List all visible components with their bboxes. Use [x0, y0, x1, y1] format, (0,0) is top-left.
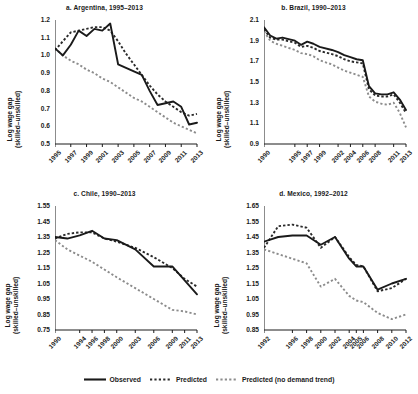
y-tick-label: 1.45 [246, 233, 259, 240]
x-tick-label: 2009 [164, 335, 179, 350]
series-line-dashed [55, 232, 197, 286]
panel-a-ylabel-line2: (skilled–unskilled) [14, 91, 22, 148]
x-tick-label: 1996 [284, 335, 299, 350]
x-tick-label: 2000 [313, 335, 328, 350]
series-line-dashed [264, 225, 406, 292]
y-tick-label: 1.7 [250, 57, 259, 64]
x-tick-label: 2013 [398, 149, 413, 164]
series-line-dotted [264, 31, 406, 127]
x-tick-label: 1999 [79, 149, 94, 164]
legend-label-predicted-no-demand: Predicted (no demand trend) [242, 376, 335, 383]
y-tick-label: 0.85 [246, 326, 259, 333]
x-tick-label: 1992 [256, 335, 271, 350]
figure-wage-gap-panels: a. Argentina, 1995–2013 Log wage gap (sk… [0, 0, 418, 394]
y-tick-label: 1.15 [37, 264, 50, 271]
y-tick-label: 1.35 [37, 233, 50, 240]
x-tick-label: 1998 [96, 335, 111, 350]
y-tick-label: 0.75 [37, 326, 50, 333]
series-line-dashed [264, 29, 406, 113]
y-tick-label: 1.65 [246, 202, 259, 209]
x-tick-label: 2010 [384, 335, 399, 350]
x-tick-label: 1994 [72, 335, 87, 350]
panel-b-ylabel-line1: Log wage gap [215, 91, 223, 148]
x-tick-label: 2006 [146, 335, 161, 350]
legend: Observed Predicted Predicted (no demand … [0, 368, 418, 390]
x-tick-label: 2006 [355, 149, 370, 164]
y-tick-label: 1.05 [37, 280, 50, 287]
y-tick-label: 1.55 [37, 202, 50, 209]
x-tick-label: 2003 [110, 149, 125, 164]
panel-a-title: a. Argentina, 1995–2013 [0, 4, 209, 11]
x-tick-label: 2003 [127, 335, 142, 350]
panel-a-argentina: a. Argentina, 1995–2013 Log wage gap (sk… [0, 0, 209, 186]
panel-a-plot [55, 20, 200, 147]
panel-b-brazil: b. Brazil, 1990–2013 Log wage gap (skill… [209, 0, 418, 186]
x-tick-label: 2008 [367, 149, 382, 164]
y-tick-label: 2.1 [250, 16, 259, 23]
x-tick-label: 2011 [386, 149, 401, 164]
legend-swatch-predicted [150, 376, 172, 383]
x-tick-label: 2011 [177, 335, 192, 350]
legend-label-observed: Observed [110, 376, 141, 383]
panel-b-ylabel-line2: (skilled–unskilled) [223, 91, 231, 148]
y-tick-label: 1.35 [246, 249, 259, 256]
panel-b-plot [264, 20, 409, 147]
panel-d-mexico: d. Mexico, 1992–2012 Log wage gap (skill… [209, 186, 418, 372]
panel-b-title: b. Brazil, 1990–2013 [209, 4, 418, 11]
x-tick-label: 1999 [312, 149, 327, 164]
x-tick-label: 2012 [398, 335, 413, 350]
x-tick-label: 2001 [94, 149, 109, 164]
x-tick-label: 2013 [189, 149, 204, 164]
series-line-solid [55, 231, 197, 295]
y-tick-label: 0.7 [41, 105, 50, 112]
panel-b-ylabel: Log wage gap (skilled–unskilled) [215, 91, 231, 148]
y-tick-label: 1.0 [41, 51, 50, 58]
x-tick-label: 1998 [299, 335, 314, 350]
y-tick-label: 0.6 [41, 122, 50, 129]
x-tick-label: 2004 [343, 149, 358, 164]
series-line-dotted [55, 48, 197, 133]
axis-lines [55, 20, 197, 144]
x-tick-label: 2011 [173, 149, 188, 164]
y-tick-label: 1.05 [246, 295, 259, 302]
x-tick-label: 2005 [126, 149, 141, 164]
panel-a-ylabel: Log wage gap (skilled–unskilled) [6, 91, 22, 148]
y-tick-label: 0.95 [37, 295, 50, 302]
x-tick-label: 2013 [189, 335, 204, 350]
y-tick-label: 0.9 [41, 69, 50, 76]
plot-area [264, 206, 409, 333]
panel-c-ylabel: Log wage gap (skilled–unskilled) [4, 277, 20, 334]
y-tick-label: 1.9 [250, 37, 259, 44]
x-tick-label: 1990 [256, 149, 271, 164]
y-tick-label: 1.55 [246, 218, 259, 225]
panel-a-ylabel-line1: Log wage gap [6, 91, 14, 148]
series-line-solid [264, 27, 406, 110]
panel-grid: a. Argentina, 1995–2013 Log wage gap (sk… [0, 0, 418, 372]
legend-label-predicted: Predicted [176, 376, 207, 383]
plot-area [264, 20, 409, 147]
y-tick-label: 0.85 [37, 311, 50, 318]
y-tick-label: 1.25 [37, 249, 50, 256]
y-tick-label: 0.8 [41, 87, 50, 94]
y-tick-label: 1.5 [250, 78, 259, 85]
x-tick-label: 1995 [47, 149, 62, 164]
y-tick-label: 1.25 [246, 264, 259, 271]
x-tick-label: 2008 [370, 335, 385, 350]
y-tick-label: 1.15 [246, 280, 259, 287]
y-tick-label: 0.5 [41, 140, 50, 147]
panel-d-plot [264, 206, 409, 333]
y-tick-label: 1.3 [250, 99, 259, 106]
panel-d-title: d. Mexico, 1992–2012 [209, 190, 418, 197]
panel-c-ylabel-line1: Log wage gap [4, 277, 12, 334]
legend-item-predicted: Predicted [150, 376, 207, 383]
legend-item-observed: Observed [84, 376, 141, 383]
y-tick-label: 0.95 [246, 311, 259, 318]
plot-area [55, 20, 200, 147]
panel-c-ylabel-line2: (skilled–unskilled) [12, 277, 20, 334]
plot-area [55, 206, 200, 333]
legend-swatch-observed [84, 376, 106, 383]
panel-d-ylabel-line2: (skilled–unskilled) [221, 277, 229, 334]
y-tick-label: 1.1 [41, 34, 50, 41]
series-line-dotted [264, 249, 406, 319]
x-tick-label: 1997 [299, 149, 314, 164]
